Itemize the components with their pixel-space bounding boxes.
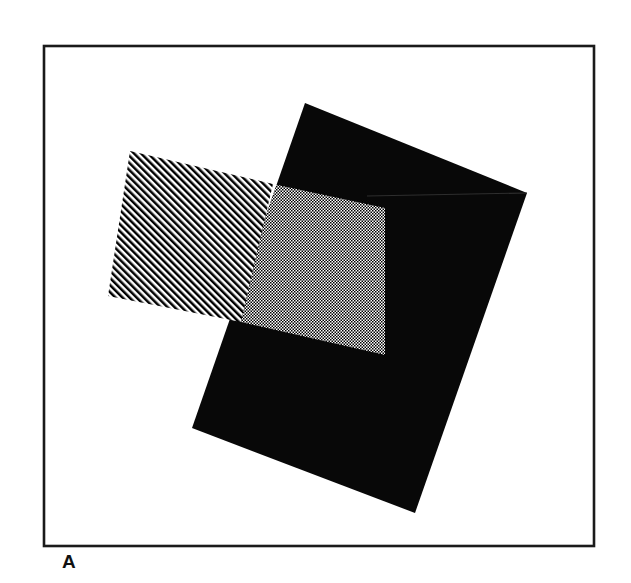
figure-panel: A xyxy=(0,0,631,583)
figure-canvas xyxy=(0,0,631,583)
panel-label-a: A xyxy=(62,552,76,571)
